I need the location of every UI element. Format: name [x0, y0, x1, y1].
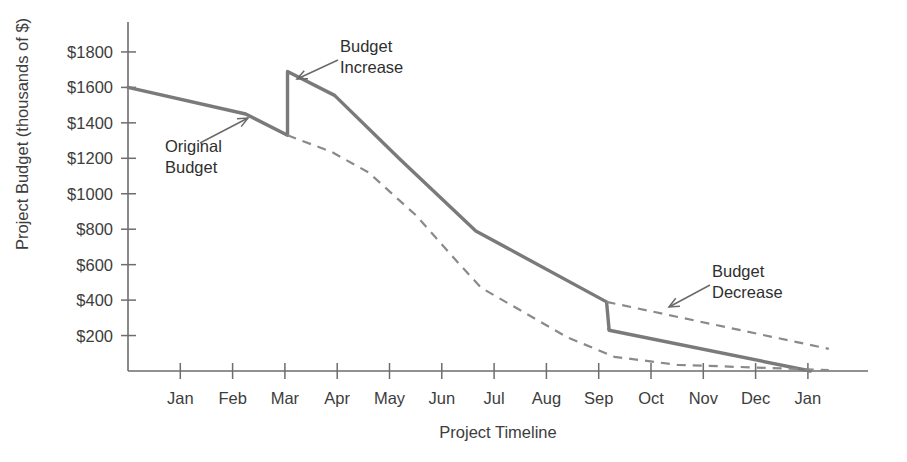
annotation-leader-line — [669, 285, 710, 307]
annotation-label: Decrease — [712, 283, 783, 301]
x-axis-ticks: JanFebMarAprMayJunJulAugSepOctNovDecJan — [167, 363, 821, 407]
x-tick-label: May — [374, 389, 406, 407]
x-tick-label: Mar — [271, 389, 300, 407]
y-axis-ticks: $1800$1600$1400$1200$1000$800$600$400$20… — [67, 43, 136, 345]
x-tick-label: Apr — [324, 389, 350, 407]
x-axis-title: Project Timeline — [439, 423, 556, 441]
annotation-budget-decrease: BudgetDecrease — [669, 262, 783, 307]
x-tick-label: Feb — [218, 389, 246, 407]
annotation-leader-line — [200, 118, 248, 143]
x-tick-label: Aug — [532, 389, 561, 407]
annotation-original-budget: OriginalBudget — [165, 118, 248, 176]
x-tick-label: Jan — [795, 389, 822, 407]
x-tick-label: Jun — [428, 389, 455, 407]
data-series-layer — [128, 71, 829, 371]
x-tick-label: Sep — [584, 389, 613, 407]
series-revised-budget — [128, 71, 811, 371]
x-tick-label: Jul — [484, 389, 505, 407]
x-tick-label: Dec — [741, 389, 770, 407]
y-tick-label: $1400 — [67, 114, 113, 132]
y-tick-label: $200 — [76, 327, 113, 345]
vertical-connectors — [288, 71, 608, 330]
annotation-label: Budget — [340, 37, 393, 55]
y-tick-label: $1600 — [67, 78, 113, 96]
y-tick-label: $1000 — [67, 185, 113, 203]
annotation-label: Budget — [165, 158, 218, 176]
chart-canvas: $1800$1600$1400$1200$1000$800$600$400$20… — [0, 0, 907, 462]
annotation-label: Budget — [712, 262, 765, 280]
annotation-budget-increase: BudgetIncrease — [297, 37, 403, 79]
y-tick-label: $800 — [76, 220, 113, 238]
y-tick-label: $1200 — [67, 149, 113, 167]
y-tick-label: $600 — [76, 256, 113, 274]
x-tick-label: Nov — [689, 389, 719, 407]
x-tick-label: Oct — [638, 389, 664, 407]
annotation-label: Original — [165, 137, 222, 155]
x-axis: JanFebMarAprMayJunJulAugSepOctNovDecJan — [128, 363, 868, 407]
y-axis: $1800$1600$1400$1200$1000$800$600$400$20… — [67, 22, 136, 371]
budget-chart: $1800$1600$1400$1200$1000$800$600$400$20… — [0, 0, 907, 462]
annotation-label: Increase — [340, 58, 403, 76]
y-tick-label: $400 — [76, 291, 113, 309]
annotation-leader-line — [297, 60, 338, 79]
annotation-layer: OriginalBudgetBudgetIncreaseBudgetDecrea… — [165, 37, 783, 307]
y-tick-label: $1800 — [67, 43, 113, 61]
x-tick-label: Jan — [167, 389, 194, 407]
series-original-budget-tail — [607, 302, 829, 349]
y-axis-title: Project Budget (thousands of $) — [13, 18, 31, 250]
series-original-budget — [288, 135, 829, 370]
